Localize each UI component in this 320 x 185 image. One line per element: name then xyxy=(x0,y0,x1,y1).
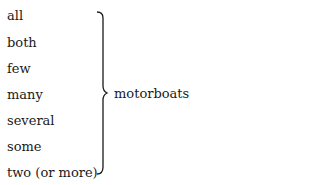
noun-motorboats: motorboats xyxy=(114,86,189,102)
